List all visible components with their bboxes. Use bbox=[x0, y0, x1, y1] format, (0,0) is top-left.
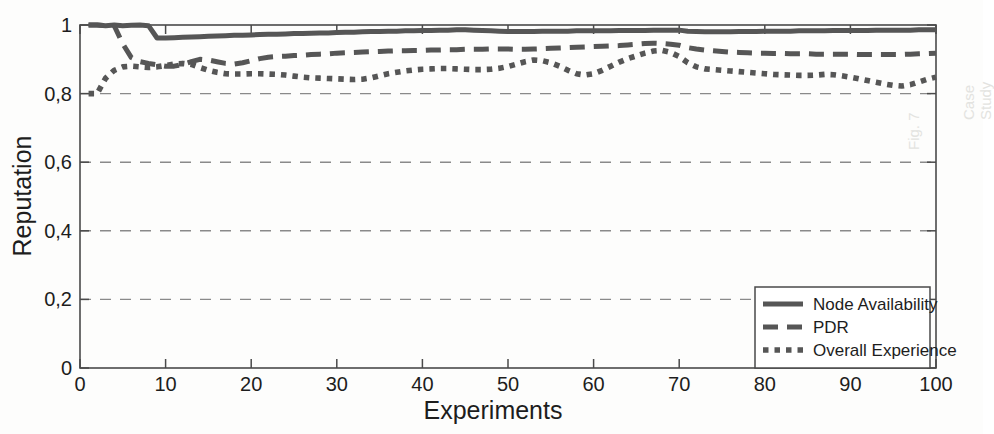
y-tick-label: 0,4 bbox=[44, 220, 72, 242]
x-tick-label: 90 bbox=[839, 373, 861, 395]
x-tick-label: 70 bbox=[668, 373, 690, 395]
data-series bbox=[89, 25, 936, 94]
x-tick-label: 60 bbox=[582, 373, 604, 395]
legend[interactable]: Node AvailabilityPDROverall Experience bbox=[755, 287, 957, 368]
x-tick-label: 50 bbox=[497, 373, 519, 395]
y-tick-label: 0 bbox=[61, 357, 72, 379]
legend-label-overall-experience: Overall Experience bbox=[813, 341, 957, 360]
y-tick-label: 0,8 bbox=[44, 83, 72, 105]
x-tick-label: 40 bbox=[411, 373, 433, 395]
x-tick-label: 20 bbox=[240, 373, 262, 395]
x-tick-label: 0 bbox=[74, 373, 85, 395]
series-line-node-availability bbox=[89, 25, 936, 38]
x-tick-label: 100 bbox=[919, 373, 952, 395]
x-tick-label: 30 bbox=[326, 373, 348, 395]
x-tick-label: 10 bbox=[154, 373, 176, 395]
x-axis-tick-labels: 0102030405060708090100 bbox=[74, 373, 952, 395]
y-tick-label: 0,6 bbox=[44, 151, 72, 173]
y-tick-label: 1 bbox=[61, 14, 72, 36]
series-line-overall-experience bbox=[89, 50, 936, 93]
x-axis-title: Experiments bbox=[424, 396, 563, 424]
legend-label-pdr: PDR bbox=[813, 318, 849, 337]
y-axis-title: Reputation bbox=[8, 136, 36, 257]
grid-lines bbox=[80, 94, 936, 300]
y-tick-label: 0,2 bbox=[44, 288, 72, 310]
x-tick-label: 80 bbox=[754, 373, 776, 395]
legend-label-node-availability: Node Availability bbox=[813, 295, 938, 314]
y-axis-tick-labels: 00,20,40,60,81 bbox=[44, 14, 72, 379]
